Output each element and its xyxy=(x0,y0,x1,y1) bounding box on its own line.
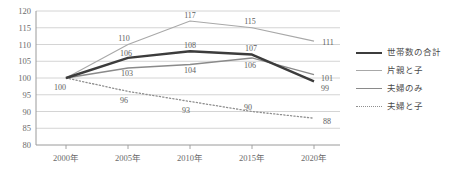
data-label-couple-with-kids-2015: 90 xyxy=(244,103,252,112)
legend-item-couple-only[interactable]: 夫婦のみ xyxy=(356,83,441,94)
data-label-total-2010: 108 xyxy=(184,41,196,50)
y-axis-tick-labels: 120 115 110 105 100 95 90 85 80 xyxy=(18,6,31,150)
x-tick-2015: 2015年 xyxy=(239,153,265,163)
x-tick-2000: 2000年 xyxy=(53,153,79,163)
x-tick-2010: 2010年 xyxy=(177,153,203,163)
data-label-couple-with-kids-2010: 93 xyxy=(182,106,190,115)
data-label-single-parent-2020: 111 xyxy=(322,38,333,47)
data-label-couple-with-kids-2005: 96 xyxy=(120,96,128,105)
y-tick-120: 120 xyxy=(18,6,31,16)
y-tick-85: 85 xyxy=(23,123,32,133)
legend-line-couple-only-icon xyxy=(356,88,382,89)
legend-line-single-parent-icon xyxy=(356,70,382,71)
legend-item-couple-with-kids[interactable]: 夫婦と子 xyxy=(356,101,441,112)
chart-legend: 世帯数の合計 片親と子 夫婦のみ 夫婦と子 xyxy=(356,47,441,112)
legend-line-total-icon xyxy=(356,52,382,54)
data-label-total-2005: 106 xyxy=(120,49,132,58)
x-tick-2005: 2005年 xyxy=(115,153,141,163)
y-tick-100: 100 xyxy=(18,73,31,83)
y-tick-105: 105 xyxy=(18,56,31,66)
legend-label-couple-only: 夫婦のみ xyxy=(387,84,423,93)
y-tick-90: 90 xyxy=(23,107,32,117)
legend-label-total: 世帯数の合計 xyxy=(387,48,441,57)
data-label-total-2015: 107 xyxy=(245,44,257,53)
data-label-couple-only-2015: 106 xyxy=(244,61,256,70)
legend-line-couple-with-kids-icon xyxy=(356,106,382,107)
data-label-single-parent-2005: 110 xyxy=(118,34,130,43)
y-tick-95: 95 xyxy=(23,90,32,100)
legend-item-single-parent[interactable]: 片親と子 xyxy=(356,65,441,76)
legend-label-single-parent: 片親と子 xyxy=(387,66,423,75)
data-label-couple-only-2020: 101 xyxy=(321,74,333,83)
data-label-single-parent-2015: 115 xyxy=(244,17,256,26)
x-axis-tick-labels: 2000年 2005年 2010年 2015年 2020年 xyxy=(53,153,327,163)
y-tick-115: 115 xyxy=(19,23,31,33)
legend-label-couple-with-kids: 夫婦と子 xyxy=(387,102,423,111)
data-label-couple-only-2005: 103 xyxy=(121,69,133,78)
data-label-couple-only-2010: 104 xyxy=(184,66,196,75)
line-chart: 120 115 110 105 100 95 90 85 80 2000年 20… xyxy=(0,0,456,175)
legend-item-total[interactable]: 世帯数の合計 xyxy=(356,47,441,58)
data-label-origin-100: 100 xyxy=(54,83,66,92)
data-label-total-2020: 99 xyxy=(321,84,329,93)
data-label-single-parent-2010: 117 xyxy=(184,11,196,20)
y-tick-110: 110 xyxy=(19,40,31,50)
y-tick-80: 80 xyxy=(23,140,32,150)
x-tick-2020: 2020年 xyxy=(301,153,327,163)
x-axis-ticks xyxy=(66,145,314,149)
series-line-couple-with-kids xyxy=(66,78,314,118)
data-label-couple-with-kids-2020: 88 xyxy=(323,117,331,126)
